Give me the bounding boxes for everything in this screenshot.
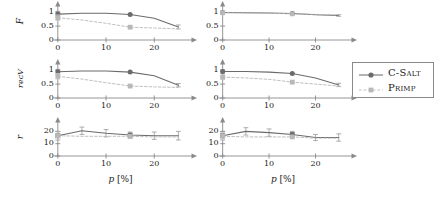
panel-middle-left — [54, 59, 197, 101]
legend-label-primp: Primp — [388, 82, 416, 93]
panel-bottom-right — [219, 117, 357, 159]
panel-top-right — [219, 1, 357, 43]
panel-middle-right — [219, 59, 357, 101]
y-axis-title-f: F — [15, 9, 25, 33]
legend-entry-csalt: C-Salt — [358, 66, 421, 78]
figure-root: 0102000.510102000.510102000.510102000.51… — [0, 0, 442, 199]
y-axis-title-recv: recV — [16, 67, 25, 91]
x-axis-title-right: p [%] — [198, 174, 368, 184]
legend-label-csalt: C-Salt — [388, 67, 421, 78]
legend-swatch-primp — [358, 81, 384, 93]
y-axis-title-r: r — [15, 125, 25, 149]
multi-panel-plot — [0, 0, 442, 199]
x-axis-title-left: p [%] — [33, 174, 208, 184]
panel-top-left — [54, 1, 197, 43]
legend-entry-primp: Primp — [358, 81, 416, 93]
panel-bottom-left — [54, 117, 197, 159]
legend-swatch-csalt — [358, 66, 384, 78]
legend-box: C-Salt Primp — [352, 62, 434, 98]
